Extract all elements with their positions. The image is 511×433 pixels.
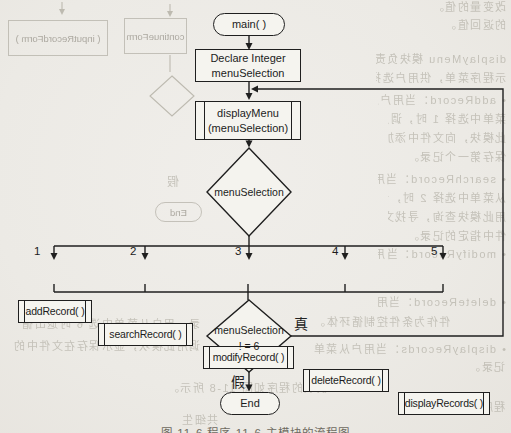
- display-menu-line2: (menuSelection): [208, 121, 288, 135]
- loop-decision-line1: menuSelection: [195, 324, 303, 338]
- true-branch-label: 真: [294, 313, 308, 333]
- end-label: End: [240, 396, 260, 410]
- branch-number-5: 5: [431, 245, 437, 257]
- display-records-module-box: displayRecords( ): [398, 392, 490, 415]
- display-menu-line1: displayMenu: [217, 106, 279, 120]
- delete-record-label: deleteRecord( ): [311, 374, 380, 388]
- branch-number-1: 1: [34, 245, 40, 257]
- end-terminator: End: [220, 392, 280, 415]
- menu-decision-label: menuSelection: [195, 186, 303, 200]
- add-record-label: addRecord( ): [26, 305, 85, 319]
- declare-line2: menuSelection: [212, 66, 285, 80]
- figure-caption: 图 11-6 程序 11-6 主模块的流程图: [0, 424, 511, 433]
- delete-record-module-box: deleteRecord( ): [303, 369, 389, 392]
- branch-number-3: 3: [235, 245, 241, 257]
- declare-process-box: Declare Integer menuSelection: [195, 49, 301, 82]
- search-record-label: searchRecord( ): [109, 328, 181, 342]
- start-label: main( ): [232, 17, 266, 31]
- display-records-label: displayRecords( ): [405, 397, 483, 411]
- add-record-module-box: addRecord( ): [18, 300, 92, 323]
- loop-decision-line2: ! = 6: [195, 340, 303, 354]
- branch-number-4: 4: [332, 245, 338, 257]
- search-record-module-box: searchRecord( ): [98, 323, 193, 346]
- start-terminator: main( ): [213, 13, 285, 36]
- false-branch-label: 假: [231, 371, 245, 391]
- branch-number-2: 2: [130, 245, 136, 257]
- scanned-book-page: 改变量的值。的返回值。displayMenu 模块负责显示程序菜单，供用户选择。…: [0, 0, 511, 433]
- declare-line1: Declare Integer: [210, 51, 285, 65]
- display-menu-module-box: displayMenu (menuSelection): [195, 101, 301, 140]
